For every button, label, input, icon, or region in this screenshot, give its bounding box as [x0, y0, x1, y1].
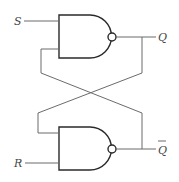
qbar-label: Q [158, 144, 167, 157]
sr-latch-diagram: S R Q Q [0, 0, 179, 182]
r-label: R [13, 157, 22, 170]
top-inversion-bubble [108, 33, 116, 41]
q-label: Q [158, 31, 167, 44]
bottom-nand-gate [59, 127, 116, 170]
bottom-inversion-bubble [108, 145, 116, 153]
top-nand-gate [59, 15, 116, 58]
s-label: S [14, 15, 22, 28]
